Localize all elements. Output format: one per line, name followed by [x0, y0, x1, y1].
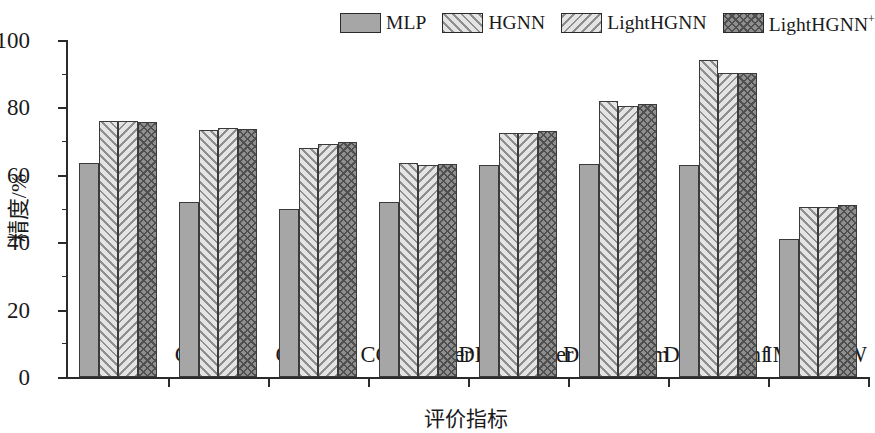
bar [638, 104, 658, 377]
legend-swatch-backward-diagonal-hatch [561, 13, 602, 33]
bar [338, 142, 358, 377]
y-axis-tick [58, 310, 68, 312]
bar [199, 130, 219, 377]
bar [418, 165, 438, 377]
x-axis-title: 评价指标 [424, 402, 508, 432]
y-axis-tick [58, 175, 68, 177]
bar [99, 121, 119, 377]
x-axis-tick [768, 377, 770, 387]
legend-label: MLP [386, 13, 426, 33]
y-axis-minor-tick [62, 74, 68, 75]
legend-label: LightHGNN+ [769, 13, 875, 34]
legend-swatch-forward-diagonal-hatch [442, 13, 483, 33]
y-axis-tick-label: 100 [0, 29, 30, 52]
y-axis-tick [58, 40, 68, 42]
bar [538, 131, 558, 377]
x-axis-tick [468, 377, 470, 387]
bar [799, 207, 819, 377]
y-axis-tick-label: 20 [0, 298, 30, 321]
bar [518, 133, 538, 377]
bar [379, 202, 399, 377]
y-axis-minor-tick [62, 209, 68, 210]
x-axis-tick [568, 377, 570, 387]
x-axis-tick [868, 377, 870, 387]
legend-entry-lighthgnn-plus[interactable]: LightHGNN+ [723, 13, 875, 34]
x-axis-tick [268, 377, 270, 387]
bar [299, 148, 319, 377]
legend-swatch-solid [340, 13, 381, 33]
bar [438, 164, 458, 377]
bar [599, 101, 619, 377]
bar [699, 60, 719, 377]
bar [318, 144, 338, 377]
y-axis-tick [58, 242, 68, 244]
bar [399, 163, 419, 377]
y-axis-tick-label: 40 [0, 231, 30, 254]
x-axis-tick [368, 377, 370, 387]
bar [779, 239, 799, 377]
bar [499, 133, 519, 377]
bar [818, 207, 838, 377]
bar [238, 129, 258, 377]
bar [138, 122, 158, 377]
legend-label-superscript: + [868, 12, 875, 26]
bar [718, 73, 738, 377]
plot-inner [68, 40, 868, 377]
y-axis-tick-label: 0 [0, 366, 30, 389]
bar [279, 209, 299, 378]
y-axis-minor-tick [62, 343, 68, 344]
y-axis-tick-label: 60 [0, 163, 30, 186]
legend-label: HGNN [488, 13, 545, 33]
y-axis-tick-label: 80 [0, 96, 30, 119]
y-axis-tick [58, 107, 68, 109]
bar [179, 202, 199, 377]
bar [79, 163, 99, 377]
bar [618, 106, 638, 377]
x-axis-tick [668, 377, 670, 387]
x-axis-tick [168, 377, 170, 387]
y-axis-minor-tick [62, 141, 68, 142]
bar [118, 121, 138, 377]
bar [479, 165, 499, 377]
legend-swatch-cross-hatch [723, 13, 764, 33]
y-axis-tick [58, 377, 68, 379]
plot-area: 精度/% 020406080100 [66, 40, 868, 379]
bar [218, 128, 238, 377]
bar [679, 165, 699, 377]
bar [738, 73, 758, 377]
y-axis-minor-tick [62, 276, 68, 277]
legend-entry-hgnn[interactable]: HGNN [442, 13, 545, 33]
chart-legend: MLPHGNNLightHGNNLightHGNN+ [340, 8, 875, 38]
legend-entry-lighthgnn[interactable]: LightHGNN [561, 13, 706, 33]
legend-entry-mlp[interactable]: MLP [340, 13, 426, 33]
bar [838, 205, 858, 377]
legend-label: LightHGNN [607, 13, 706, 33]
bar [579, 164, 599, 377]
